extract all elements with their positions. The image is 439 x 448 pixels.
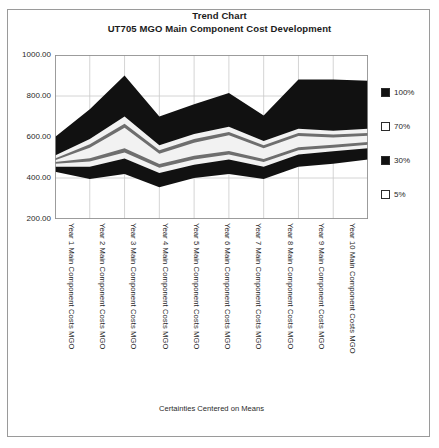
legend-item-label: 100% [394,88,414,97]
legend-swatch-icon [381,156,390,165]
x-axis-tick-label: Year 4 Main Component Costs MGO [160,223,169,349]
y-axis-tick-label: 400.00 [3,173,51,182]
x-axis-tick: Year 1 Main Component Costs MGO [55,221,86,393]
x-axis-tick: Year 6 Main Component Costs MGO [212,221,243,393]
x-axis-tick: Year 3 Main Component Costs MGO [118,221,149,393]
legend-item-label: 70% [394,122,410,131]
chart-title: Trend Chart [0,9,439,22]
x-axis-tick: Year 2 Main Component Costs MGO [86,221,117,393]
x-axis-tick-label: Year 8 Main Component Costs MGO [285,223,294,349]
x-axis-tick: Year 10 Main Component Costs MGO [337,221,368,393]
legend-item[interactable]: 5% [381,177,435,211]
legend-item[interactable]: 100% [381,75,435,109]
x-axis-tick: Year 8 Main Component Costs MGO [274,221,305,393]
x-axis-tick-label: Year 6 Main Component Costs MGO [223,223,232,349]
chart-title-block: Trend Chart UT705 MGO Main Component Cos… [0,9,439,35]
x-axis: Year 1 Main Component Costs MGOYear 2 Ma… [55,221,368,393]
x-axis-tick: Year 4 Main Component Costs MGO [149,221,180,393]
y-axis: 1000.00800.00600.00400.00200.00 [0,55,51,219]
legend-item[interactable]: 70% [381,109,435,143]
trend-chart-svg [55,55,368,219]
x-axis-tick-label: Year 1 Main Component Costs MGO [66,223,75,349]
chart-subtitle: UT705 MGO Main Component Cost Developmen… [0,22,439,35]
legend-swatch-icon [381,88,390,97]
x-axis-tick: Year 9 Main Component Costs MGO [305,221,336,393]
x-axis-tick-label: Year 7 Main Component Costs MGO [254,223,263,349]
plot-area [55,55,368,219]
y-axis-tick-label: 600.00 [3,132,51,141]
y-axis-tick-label: 200.00 [3,214,51,223]
x-axis-tick-label: Year 5 Main Component Costs MGO [191,223,200,349]
x-axis-tick-label: Year 3 Main Component Costs MGO [129,223,138,349]
legend-swatch-icon [381,122,390,131]
legend: 100%70%30%5% [381,75,435,211]
legend-item-label: 30% [394,156,410,165]
x-axis-tick-label: Year 2 Main Component Costs MGO [97,223,106,349]
legend-swatch-icon [381,190,390,199]
y-axis-tick-label: 1000.00 [3,50,51,59]
x-axis-tick: Year 7 Main Component Costs MGO [243,221,274,393]
legend-item[interactable]: 30% [381,143,435,177]
legend-item-label: 5% [394,190,406,199]
x-axis-tick: Year 5 Main Component Costs MGO [180,221,211,393]
x-axis-tick-label: Year 9 Main Component Costs MGO [317,223,326,349]
y-axis-tick-label: 800.00 [3,91,51,100]
footer-note: Certainties Centered on Means [55,404,368,413]
x-axis-tick-label: Year 10 Main Component Costs MGO [348,223,357,354]
